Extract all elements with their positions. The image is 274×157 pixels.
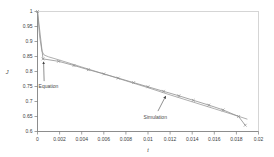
- y-axis-title: J: [5, 69, 9, 75]
- y-tick-label: 0.85: [23, 53, 33, 59]
- y-tick-label: 0.75: [23, 83, 33, 89]
- x-tick-label: 0.008: [120, 136, 133, 142]
- x-tick-label: 0.014: [186, 136, 199, 142]
- chart-figure: 10.950.90.850.80.750.70.650.600.0020.004…: [0, 0, 274, 157]
- y-tick-label: 0.6: [26, 128, 33, 134]
- simulation-annotation-label: Simulation: [144, 114, 168, 120]
- equation-line: [38, 12, 248, 120]
- simulation-annotation-arrow: [158, 96, 166, 111]
- y-tick-label: 0.95: [23, 23, 33, 29]
- y-tick-label: 0.8: [26, 68, 33, 74]
- x-tick-label: 0.018: [230, 136, 243, 142]
- x-axis-title: t: [147, 147, 149, 153]
- equation-annotation-arrow: [44, 62, 45, 81]
- x-tick-label: 0.02: [254, 136, 264, 142]
- simulation-line: [38, 12, 246, 126]
- plot-canvas: 10.950.90.850.80.750.70.650.600.0020.004…: [0, 0, 274, 157]
- x-tick-label: 0.002: [53, 136, 66, 142]
- x-tick-label: 0.01: [143, 136, 153, 142]
- y-tick-label: 0.9: [26, 38, 33, 44]
- x-tick-label: 0: [36, 136, 39, 142]
- x-tick-label: 0.006: [98, 136, 111, 142]
- x-tick-label: 0.004: [75, 136, 88, 142]
- x-tick-label: 0.016: [208, 136, 221, 142]
- y-tick-label: 0.65: [23, 113, 33, 119]
- y-tick-label: 0.7: [26, 98, 33, 104]
- equation-annotation-label: Equation: [39, 83, 59, 89]
- x-tick-label: 0.012: [164, 136, 177, 142]
- y-tick-label: 1: [30, 8, 33, 14]
